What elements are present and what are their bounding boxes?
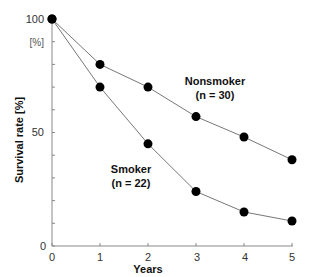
x-axis-title: Years <box>133 263 162 275</box>
data-point-marker <box>96 60 105 69</box>
x-tick-label-4: 4 <box>242 251 248 263</box>
y-tick-label-100: 100 <box>26 13 44 25</box>
x-tick-label-2: 2 <box>145 251 151 263</box>
nonsmoker-n-label: (n = 30) <box>196 89 235 101</box>
series-nonsmoker <box>48 15 297 165</box>
y-unit-label: [%] <box>30 37 45 48</box>
data-point-marker <box>144 139 153 148</box>
series-line <box>52 19 292 160</box>
data-point-marker <box>48 15 57 24</box>
data-point-marker <box>192 187 201 196</box>
data-point-marker <box>288 217 297 226</box>
y-tick-label-50: 50 <box>32 126 44 138</box>
data-point-marker <box>240 133 249 142</box>
y-axis-title: Survival rate [%] <box>13 97 25 184</box>
y-tick-label-0: 0 <box>40 240 46 252</box>
x-tick-label-0: 0 <box>49 251 55 263</box>
data-point-marker <box>192 112 201 121</box>
data-point-marker <box>96 83 105 92</box>
x-tick-label-3: 3 <box>194 251 200 263</box>
data-point-marker <box>240 207 249 216</box>
survival-chart: 100 [%] 50 0 0 1 2 3 4 5 Years Survival … <box>0 0 314 277</box>
x-tick-label-5: 5 <box>289 251 295 263</box>
data-point-marker <box>288 155 297 164</box>
smoker-n-label: (n = 22) <box>112 177 151 189</box>
series-smoker <box>48 15 297 226</box>
smoker-label: Smoker <box>111 163 152 175</box>
nonsmoker-label: Nonsmoker <box>185 75 246 87</box>
data-point-marker <box>144 83 153 92</box>
series-line <box>52 19 292 221</box>
x-tick-label-1: 1 <box>97 251 103 263</box>
